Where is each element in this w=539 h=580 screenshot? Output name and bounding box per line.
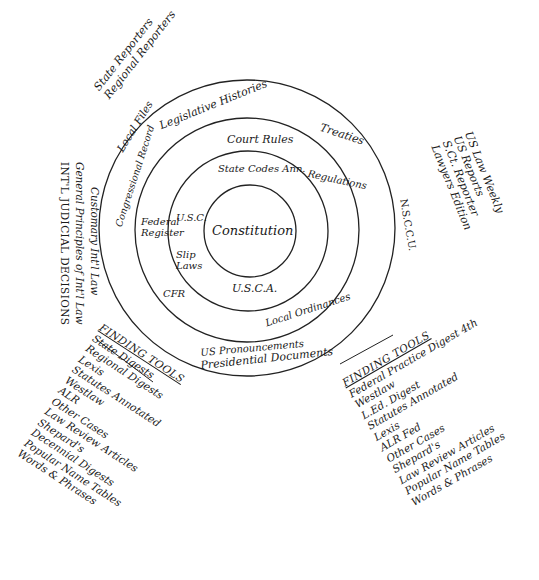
usca-label: U.S.C.A. [232, 283, 277, 295]
federal-register-label: Federal Register [141, 216, 175, 238]
customary-intl-law: Customary Int'l Law [87, 162, 102, 325]
cfr-label: CFR [163, 288, 185, 299]
state-codes-label: State Codes Ann. [218, 163, 306, 174]
usc-label: U.S.C. [176, 212, 207, 223]
intl-law-list: Customary Int'l Law General Principles o… [57, 162, 102, 325]
constitution-label: Constitution [212, 224, 293, 238]
court-rules-label: Court Rules [227, 134, 293, 146]
intl-judicial-decisions: INT'L JUDICIAL DECISIONS [57, 162, 72, 325]
slip-laws-label: Slip Laws [176, 249, 206, 271]
general-principles-intl-law: General Principles of Int'l Law [72, 162, 87, 325]
